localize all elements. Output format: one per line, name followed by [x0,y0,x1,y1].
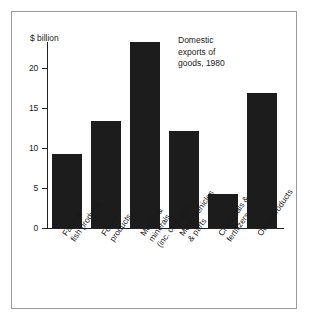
y-tick-mark-4 [42,68,48,69]
y-tick-mark-1 [42,188,48,189]
y-tick-mark-2 [42,148,48,149]
x-axis-category-labels: Farm & fish products Forest products Met… [0,228,310,318]
y-tick-mark-3 [42,108,48,109]
y-axis-line [47,42,48,229]
y-tick-label-1: 5 [33,184,38,193]
y-tick-label-2: 10 [29,144,38,153]
figure-canvas: $ billion Domestic exports of goods, 198… [0,0,310,321]
y-axis-title: $ billion [30,33,59,43]
chart-annotation: Domestic exports of goods, 1980 [178,35,225,70]
bar-2 [130,42,160,228]
y-tick-label-3: 15 [29,104,38,113]
y-tick-label-4: 20 [29,64,38,73]
bar-chart-plot: $ billion Domestic exports of goods, 198… [0,0,310,321]
